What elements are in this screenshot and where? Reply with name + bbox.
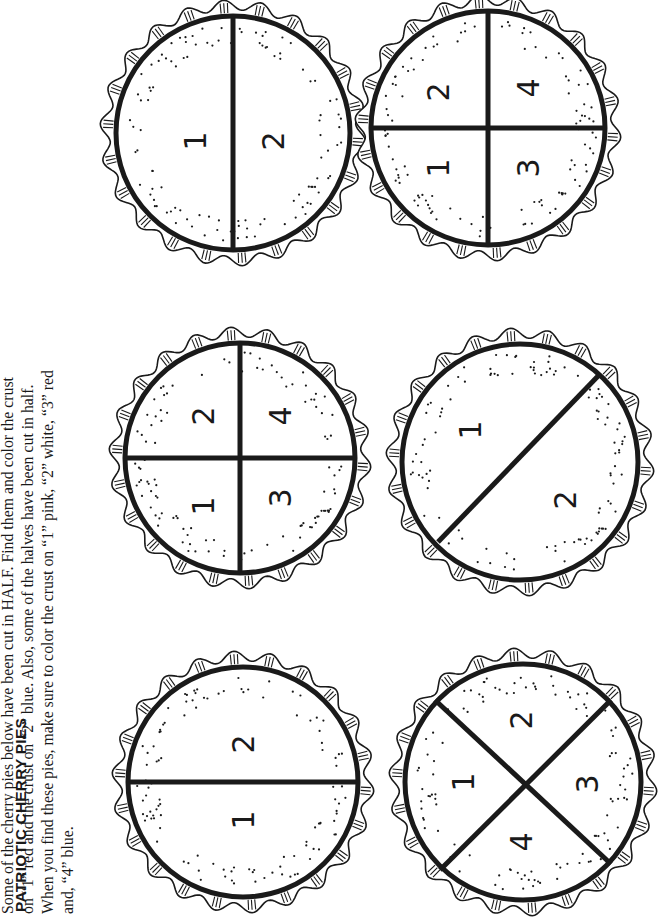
pie-filling-dot <box>223 555 225 557</box>
pie-filling-dot <box>448 542 450 544</box>
pie-filling-dot <box>319 822 321 824</box>
pie-filling-dot <box>324 436 326 438</box>
pie-filling-dot <box>607 403 609 405</box>
pie-filling-dot <box>624 788 626 790</box>
pie-filling-dot <box>579 539 581 541</box>
pie-filling-dot <box>392 83 394 85</box>
pie-filling-dot <box>265 31 267 33</box>
pie[interactable]: 12 <box>112 651 373 912</box>
pie-filling-dot <box>605 528 607 530</box>
pie-filling-dot <box>154 479 156 481</box>
pie[interactable]: 12 <box>100 0 365 265</box>
crust-crimp-mark <box>479 0 480 8</box>
pie-filling-dot <box>459 218 461 220</box>
pie-filling-dot <box>238 225 240 227</box>
pie-filling-dot <box>463 690 465 692</box>
pie-filling-dot <box>545 57 547 59</box>
pie-filling-dot <box>204 234 206 236</box>
pie-filling-dot <box>574 179 576 181</box>
pie-filling-dot <box>537 880 539 882</box>
pie-filling-dot <box>302 522 304 524</box>
pie-filling-dot <box>320 114 322 116</box>
pie-filling-dot <box>194 550 196 552</box>
crust-crimp-mark <box>115 773 125 774</box>
pie-filling-dot <box>418 767 420 769</box>
pie-section-label: 1 <box>178 131 213 150</box>
pie-filling-dot <box>177 517 179 519</box>
pie-filling-dot <box>182 541 184 543</box>
pie-filling-dot <box>590 860 592 862</box>
pie-filling-dot <box>259 358 261 360</box>
pie-filling-dot <box>585 707 587 709</box>
pie-filling-dot <box>231 879 233 881</box>
pie-filling-dot <box>315 393 317 395</box>
crust-crimp-mark <box>511 331 512 341</box>
pie-filling-dot <box>467 711 469 713</box>
pie-filling-dot <box>610 729 612 731</box>
pie-filling-dot <box>194 692 196 694</box>
pie-filling-dot <box>534 372 536 374</box>
pie-filling-dot <box>208 216 210 218</box>
pie-filling-dot <box>161 54 163 56</box>
pie[interactable]: 12 <box>386 328 653 595</box>
pie-filling-dot <box>495 354 497 356</box>
pie-filling-dot <box>532 682 534 684</box>
pie-filling-dot <box>333 488 335 490</box>
pie-filling-dot <box>459 870 461 872</box>
pie-filling-dot <box>546 546 548 548</box>
pie-filling-dot <box>435 431 437 433</box>
pie-filling-dot <box>239 28 241 30</box>
pie-filling-dot <box>614 511 616 513</box>
pie-filling-dot <box>166 412 168 414</box>
pie-filling-dot <box>564 560 566 562</box>
pie-filling-dot <box>309 720 311 722</box>
pie-filling-dot <box>191 225 193 227</box>
pie-filling-dot <box>318 119 320 121</box>
crust-crimp-mark <box>644 787 654 788</box>
pie-filling-dot <box>524 223 526 225</box>
pie-filling-dot <box>218 219 220 221</box>
pie-filling-dot <box>453 843 455 845</box>
pie-filling-dot <box>175 222 177 224</box>
pie-filling-dot <box>568 79 570 81</box>
pie-filling-dot <box>316 516 318 518</box>
pie-filling-dot <box>139 184 141 186</box>
pie-filling-dot <box>458 529 460 531</box>
pie-filling-dot <box>425 199 427 201</box>
crust-crimp-mark <box>242 253 243 263</box>
pie[interactable]: 1234 <box>109 327 370 588</box>
crust-crimp-mark <box>112 449 122 450</box>
pie-filling-dot <box>513 568 515 570</box>
pie-filling-dot <box>554 694 556 696</box>
pie-filling-dot <box>335 757 337 759</box>
crust-crimp-mark <box>231 330 232 340</box>
pie-filling-dot <box>150 506 152 508</box>
pie-filling-dot <box>439 415 441 417</box>
pie-filling-dot <box>568 92 570 94</box>
pie-filling-dot <box>395 168 397 170</box>
pie-filling-dot <box>321 749 323 751</box>
crust-crimp-mark <box>525 583 526 593</box>
pie-filling-dot <box>457 40 459 42</box>
pie-filling-dot <box>477 561 479 563</box>
pie-filling-dot <box>420 461 422 463</box>
pie[interactable]: 1234 <box>389 648 656 915</box>
pie-filling-dot <box>243 552 245 554</box>
crust-crimp-mark <box>245 576 246 586</box>
crust-crimp-mark <box>532 903 533 913</box>
pie-filling-dot <box>610 474 612 476</box>
pie-filling-dot <box>249 352 251 354</box>
pie-filling-dot <box>162 385 164 387</box>
pie-filling-dot <box>155 415 157 417</box>
pie[interactable]: 1234 <box>355 0 620 261</box>
pie-filling-dot <box>253 869 255 871</box>
pie-filling-dot <box>590 539 592 541</box>
pie-filling-dot <box>541 204 543 206</box>
pie-filling-dot <box>520 677 522 679</box>
pie-filling-dot <box>155 808 157 810</box>
pie-filling-dot <box>533 361 535 363</box>
pie-filling-dot <box>179 209 181 211</box>
pie-filling-dot <box>397 174 399 176</box>
pie-filling-dot <box>152 170 154 172</box>
pie-filling-dot <box>417 769 419 771</box>
